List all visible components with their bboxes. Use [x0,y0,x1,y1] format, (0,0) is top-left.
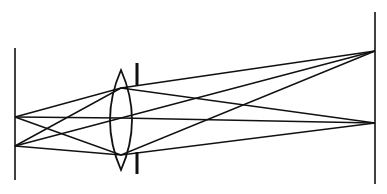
light-ray [15,117,375,155]
ray-diagram [0,0,387,194]
diagram-canvas [0,0,387,194]
light-ray [15,117,375,123]
light-ray [15,51,375,146]
